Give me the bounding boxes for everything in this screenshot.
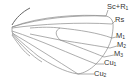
label-text: Rs bbox=[115, 15, 124, 24]
label-text: Cu bbox=[94, 69, 104, 78]
label-cu2: Cu2 bbox=[94, 70, 106, 78]
vein-anal-1 bbox=[12, 34, 42, 62]
label-text: Cu bbox=[104, 58, 114, 67]
label-subscript: 1 bbox=[114, 61, 117, 67]
label-rs: Rs bbox=[115, 16, 124, 24]
vein-rs bbox=[12, 23, 112, 28]
label-sc-r1: Sc+R1 bbox=[107, 3, 128, 11]
label-subscript: 2 bbox=[104, 72, 107, 78]
label-text: Sc+R bbox=[107, 2, 126, 11]
label-subscript: 1 bbox=[126, 5, 129, 11]
vein-m3 bbox=[60, 40, 104, 57]
label-m1: M1 bbox=[116, 32, 125, 40]
label-subscript: 3 bbox=[120, 52, 123, 58]
vein-cu2 bbox=[12, 33, 78, 74]
label-cu1: Cu1 bbox=[104, 59, 116, 67]
label-m3: M3 bbox=[114, 50, 123, 58]
discal-cell bbox=[30, 27, 60, 40]
label-m2: M2 bbox=[117, 41, 126, 49]
vein-sc-r1 bbox=[12, 16, 106, 27]
label-subscript: 2 bbox=[123, 43, 126, 49]
wing-outline bbox=[12, 15, 113, 74]
vein-m1 bbox=[60, 28, 112, 38]
vein-m2 bbox=[60, 40, 110, 48]
